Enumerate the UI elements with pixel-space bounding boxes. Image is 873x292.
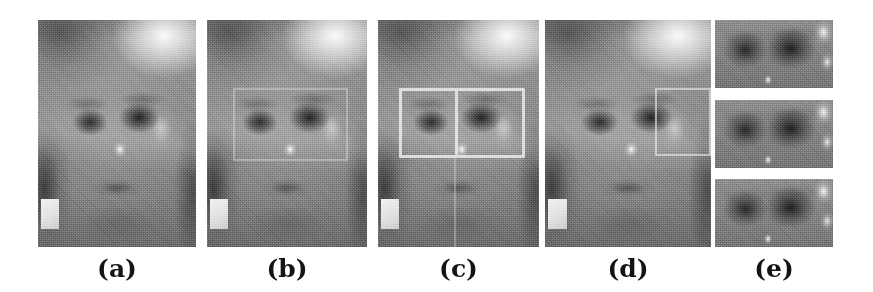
corner-patch bbox=[548, 199, 566, 229]
figure-root: (a) (b) (c) bbox=[0, 0, 873, 292]
eye-crop-bottom[interactable] bbox=[715, 179, 833, 247]
panel-e[interactable] bbox=[715, 20, 833, 247]
corner-patch bbox=[41, 199, 58, 229]
panel-b[interactable] bbox=[207, 20, 367, 247]
corner-patch bbox=[381, 199, 399, 229]
panel-e-caption: (e) bbox=[715, 256, 833, 281]
panel-d[interactable] bbox=[545, 20, 711, 247]
face-photograph bbox=[545, 20, 711, 247]
face-photograph bbox=[378, 20, 539, 247]
eye-crop-top[interactable] bbox=[715, 20, 833, 88]
eye-region-image bbox=[715, 100, 833, 168]
panel-a[interactable] bbox=[38, 20, 196, 247]
panel-c-caption: (c) bbox=[378, 256, 539, 281]
eye-crop-middle[interactable] bbox=[715, 100, 833, 168]
panel-d-image bbox=[545, 20, 711, 247]
roi-extended-vertical-line bbox=[454, 158, 456, 247]
face-photograph bbox=[38, 20, 196, 247]
panel-d-caption: (d) bbox=[545, 256, 711, 281]
face-photograph bbox=[207, 20, 367, 247]
eye-region-image bbox=[715, 20, 833, 88]
eye-region-image bbox=[715, 179, 833, 247]
panel-c[interactable] bbox=[378, 20, 539, 247]
panel-a-image bbox=[38, 20, 196, 247]
panel-b-caption: (b) bbox=[207, 256, 367, 281]
panel-c-image bbox=[378, 20, 539, 247]
panel-b-image bbox=[207, 20, 367, 247]
corner-patch bbox=[210, 199, 228, 229]
panel-a-caption: (a) bbox=[38, 256, 196, 281]
